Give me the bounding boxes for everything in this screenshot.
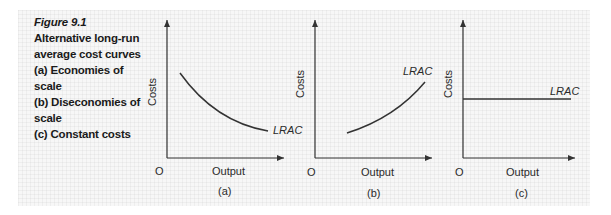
curve-label: LRAC [550,85,579,97]
y-axis-label: Costs [146,77,158,106]
panel-a: LRAC Costs O Output (a) [146,20,302,197]
panel-c: LRAC Costs O Output (c) [442,20,579,199]
lrac-curve-downward [180,73,268,131]
x-axis-label: Output [212,165,245,177]
x-axis-label: Output [506,166,539,178]
panel-sublabel: (b) [367,187,380,199]
origin-label: O [455,166,464,178]
origin-label: O [307,166,316,178]
origin-label: O [155,165,164,177]
lrac-curve-upward [347,82,425,133]
curve-label: LRAC [403,65,432,77]
curve-label: LRAC [273,124,302,136]
x-axis-label: Output [361,166,394,178]
cost-curve-diagrams: LRAC Costs O Output (a) LRAC Costs O Out… [0,0,611,215]
y-axis-label: Costs [294,69,306,98]
panel-sublabel: (c) [515,187,528,199]
panel-sublabel: (a) [218,185,231,197]
y-axis-label: Costs [442,69,454,98]
panel-b: LRAC Costs O Output (b) [294,20,432,199]
